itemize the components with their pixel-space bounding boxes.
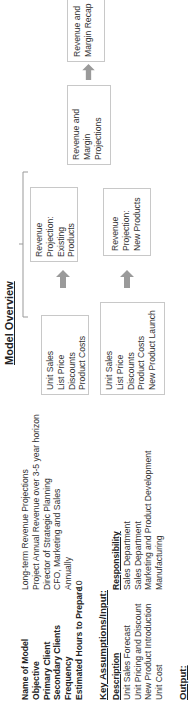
assumption-resp: Sales Department [133, 451, 144, 591]
value-objective: Project Annual Revenue over 3-5 year hor… [31, 414, 42, 590]
arrow-right-icon [56, 270, 70, 288]
value-hours: 10 [74, 414, 85, 590]
box-line: Revenue and [71, 90, 82, 160]
input-item: List Price [115, 307, 126, 390]
input-item: Unit Sales [104, 307, 115, 390]
grouping-brace [18, 170, 28, 318]
input-item: Discounts [126, 307, 137, 390]
col-responsibility: Responsibility [111, 451, 122, 591]
model-info-labels: Name of Model Objective Primary Client S… [20, 587, 85, 700]
input-item: Unit Sales [45, 320, 56, 390]
input-item: List Price [56, 320, 67, 390]
label-frequency: Frequency [63, 587, 74, 700]
box-line: Revenue and [72, 0, 83, 57]
value-primary-client: Director of Strategic Planning [42, 414, 53, 590]
value-secondary-clients: CFO, Marketing and Sales [52, 414, 63, 590]
margin-projections-box: Revenue and Margin Projections [67, 85, 111, 165]
input-item: Discounts [67, 320, 78, 390]
assumption-resp: Sales Department [122, 451, 133, 591]
assumption-desc: New Product Introduction [143, 604, 154, 701]
input-box-new: Unit Sales List Price Discounts Product … [100, 302, 165, 395]
arrow-right-icon [120, 270, 134, 288]
output-title: Output: [178, 665, 189, 700]
col-description: Description [111, 604, 122, 701]
value-frequency: Annually [63, 414, 74, 590]
assumption-desc: Unit Cost [154, 604, 165, 701]
proj-box-existing: Revenue Projection: Existing Products [30, 187, 78, 262]
assumption-resp: Manufacturing [154, 451, 165, 591]
input-box-existing: Unit Sales List Price Discounts Product … [41, 315, 89, 395]
label-hours: Estimated Hours to Prepare [74, 587, 85, 700]
box-line: Projections [93, 90, 104, 160]
assumptions-responsibilities: Responsibility Sales Department Sales De… [111, 451, 165, 591]
box-line: Projection: [45, 192, 56, 257]
box-line: Revenue [110, 193, 121, 251]
box-line: Projection: [121, 193, 132, 251]
overview-title: Model Overview [4, 281, 15, 365]
rotated-page: Name of Model Objective Primary Client S… [0, 0, 189, 720]
box-line: Revenue [34, 192, 45, 257]
label-secondary-clients: Secondary Clients [52, 587, 63, 700]
value-name-of-model: Long-term Revenue Projections [20, 414, 31, 590]
box-line: Margin Recap [83, 0, 94, 57]
label-name-of-model: Name of Model [20, 587, 31, 700]
box-line: Margin [82, 90, 93, 160]
box-line: Products [66, 192, 77, 257]
assumption-desc: Unit Pricing and Discount [133, 604, 144, 701]
proj-box-new: Revenue Projection: New Products [103, 188, 151, 256]
assumption-resp: Marketing and Product Development [143, 451, 154, 591]
input-item: New Product Launch [147, 307, 158, 390]
input-item: Product Costs [136, 307, 147, 390]
input-item: Product Costs [77, 320, 88, 390]
label-objective: Objective [31, 587, 42, 700]
margin-recap-box: Revenue and Margin Recap [67, 0, 105, 62]
label-primary-client: Primary Client [42, 587, 53, 700]
arrow-right-icon [82, 64, 95, 80]
box-line: New Products [132, 193, 143, 251]
assumptions-descriptions: Description Unit Sales Forecast Unit Pri… [111, 604, 165, 701]
assumption-desc: Unit Sales Forecast [122, 604, 133, 701]
model-info-values: Long-term Revenue Projections Project An… [20, 414, 85, 590]
assumptions-title: Key Assumptions/Input: [98, 590, 109, 700]
box-line: Existing [56, 192, 67, 257]
